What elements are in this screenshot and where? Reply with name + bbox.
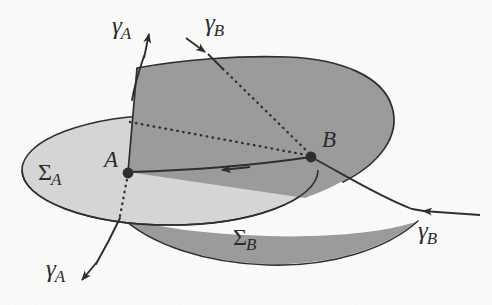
label-gamma-a-bottom: γA (46, 256, 65, 285)
sigma-a-sub: A (51, 170, 61, 189)
label-gamma-b-right: γB (418, 218, 437, 247)
sigma-a-base: Σ (38, 159, 52, 185)
figure-root: γA γB γA γB ΣA ΣB A B (0, 0, 492, 305)
label-gamma-b-top: γB (205, 10, 224, 39)
sigma-b-sub: B (246, 235, 256, 254)
gamma-a-bottom-sub: A (55, 267, 65, 286)
diagram-canvas (0, 0, 492, 305)
gamma-b-top-sub: B (214, 21, 224, 40)
paper-grain (0, 0, 492, 305)
label-point-a: A (104, 148, 118, 171)
sigma-b-base: Σ (233, 224, 247, 250)
label-gamma-a-top: γA (112, 13, 131, 42)
label-sigma-b: ΣB (233, 225, 256, 253)
gamma-a-top-sub: A (121, 24, 131, 43)
label-sigma-a: ΣA (38, 160, 61, 188)
label-point-b: B (322, 128, 336, 151)
gamma-b-right-sub: B (427, 229, 437, 248)
